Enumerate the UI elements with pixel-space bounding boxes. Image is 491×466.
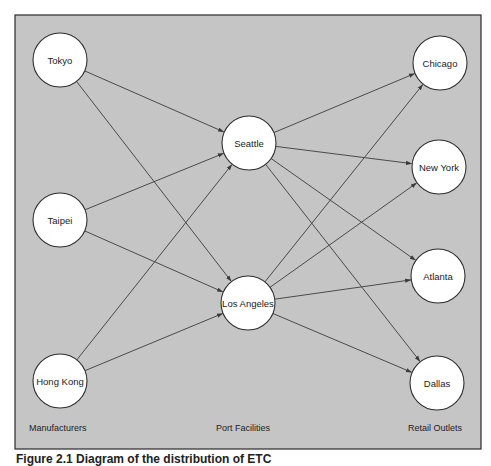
node-label: Chicago <box>423 58 458 69</box>
node-tokyo: Tokyo <box>33 33 87 87</box>
node-label: Atlanta <box>423 271 453 282</box>
node-newyork: New York <box>412 140 466 194</box>
node-taipei: Taipei <box>33 193 87 247</box>
node-dallas: Dallas <box>410 356 464 410</box>
group-label-manufacturers: Manufacturers <box>29 423 87 433</box>
node-label: Tokyo <box>48 55 73 66</box>
group-label-ports: Port Facilities <box>216 423 271 433</box>
figure-caption: Figure 2.1 Diagram of the distribution o… <box>16 452 271 466</box>
node-label: Dallas <box>424 378 451 389</box>
node-atlanta: Atlanta <box>411 249 465 303</box>
node-label: Los Angeles <box>222 298 274 309</box>
group-label-retail: Retail Outlets <box>408 423 463 433</box>
node-seattle: Seattle <box>222 116 276 170</box>
node-label: Hong Kong <box>36 376 84 387</box>
node-hongkong: Hong Kong <box>33 354 87 408</box>
node-label: New York <box>419 162 459 173</box>
node-losangeles: Los Angeles <box>221 276 275 330</box>
node-label: Taipei <box>48 215 73 226</box>
node-chicago: Chicago <box>413 36 467 90</box>
node-label: Seattle <box>234 138 264 149</box>
